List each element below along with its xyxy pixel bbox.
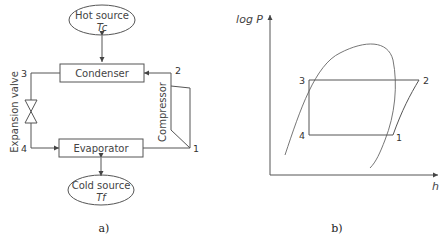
point-1-label: 1 <box>193 143 199 154</box>
caption-b: b) <box>331 222 342 235</box>
y-axis-label: log P <box>236 13 263 26</box>
compressor-label: Compressor <box>157 81 168 142</box>
x-axis-label: h <box>432 180 439 193</box>
condenser: Condenser <box>60 64 144 82</box>
point-2-label: 2 <box>175 65 181 76</box>
pipe-condenser-to-3 <box>31 73 60 100</box>
saturation-dome <box>285 44 395 168</box>
hot-source: Hot source Tc <box>69 5 135 35</box>
hot-source-label: Hot source <box>75 10 129 21</box>
expansion-valve-icon <box>25 100 37 123</box>
point-4-label: 4 <box>21 143 27 154</box>
ph-diagram: log P h 3 2 4 1 b) <box>236 13 439 235</box>
cycle-schematic: Hot source Tc Condenser Evaporator Cold … <box>9 5 199 235</box>
pipe-4-to-evaporator <box>31 123 59 148</box>
refrigeration-cycle-figure: Hot source Tc Condenser Evaporator Cold … <box>0 0 445 245</box>
ph-point-2-label: 2 <box>423 75 429 86</box>
cold-source-temp: Tf <box>96 192 107 203</box>
cycle-path <box>309 80 419 135</box>
condenser-label: Condenser <box>75 68 130 79</box>
ph-point-1-label: 1 <box>396 132 402 143</box>
cold-source: Cold source Tf <box>68 175 134 205</box>
hot-source-temp: Tc <box>97 22 108 33</box>
ph-point-3-label: 3 <box>299 75 305 86</box>
ph-point-4-label: 4 <box>299 130 305 141</box>
point-3-label: 3 <box>21 68 27 79</box>
compressor-icon <box>171 86 190 148</box>
evaporator: Evaporator <box>59 139 143 157</box>
expansion-valve-label: Expansion valve <box>9 71 20 153</box>
cold-source-label: Cold source <box>72 180 131 191</box>
caption-a: a) <box>99 222 110 235</box>
evaporator-label: Evaporator <box>73 143 129 154</box>
